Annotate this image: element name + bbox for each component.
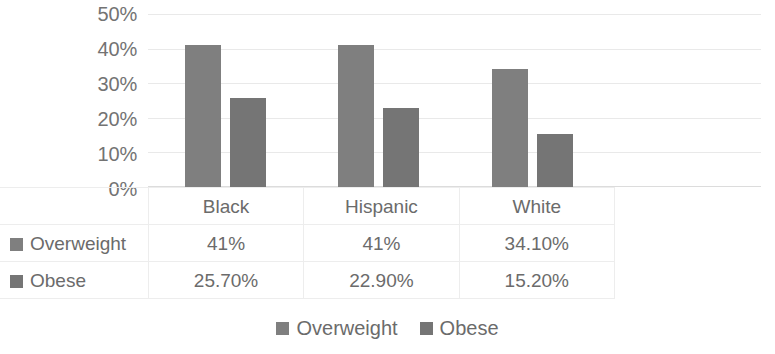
y-tick-label: 10% xyxy=(77,144,137,164)
table-row-label: Obese xyxy=(30,270,86,291)
table-cell-obese-white: 15.20% xyxy=(459,262,614,299)
data-table: Black Hispanic White Overweight 41% 41% … xyxy=(0,187,775,299)
table-column-header-black: Black xyxy=(148,188,303,225)
bar-overweight-black xyxy=(185,45,221,187)
legend-item-obese: Obese xyxy=(420,318,499,338)
table-row-label: Overweight xyxy=(30,233,126,254)
table-cell-overweight-white: 34.10% xyxy=(459,225,614,262)
legend-item-overweight: Overweight xyxy=(276,318,397,338)
chart-legend: Overweight Obese xyxy=(0,318,775,338)
y-tick-label: 30% xyxy=(77,74,137,94)
bar-obese-white xyxy=(537,134,573,187)
series-swatch-overweight-icon xyxy=(10,238,23,251)
table-cell-overweight-black: 41% xyxy=(148,225,303,262)
legend-swatch-obese-icon xyxy=(420,322,433,335)
legend-label: Obese xyxy=(440,318,499,338)
y-tick-label: 20% xyxy=(77,109,137,129)
table-cell-overweight-hispanic: 41% xyxy=(304,225,459,262)
bar-overweight-white xyxy=(492,69,528,187)
table-column-header-hispanic: Hispanic xyxy=(304,188,459,225)
table-column-header-white: White xyxy=(459,188,614,225)
y-axis: 50% 40% 30% 20% 10% 0% xyxy=(75,0,137,200)
table-header-row: Black Hispanic White xyxy=(0,188,615,225)
table-row: Overweight 41% 41% 34.10% xyxy=(0,225,615,262)
table-corner-cell xyxy=(0,188,148,225)
bar-obese-black xyxy=(230,98,266,187)
legend-label: Overweight xyxy=(296,318,397,338)
gridline-30 xyxy=(148,83,761,84)
y-tick-label: 50% xyxy=(77,4,137,24)
table-row: Obese 25.70% 22.90% 15.20% xyxy=(0,262,615,299)
gridline-50 xyxy=(148,14,761,15)
table-row-header-obese: Obese xyxy=(0,262,148,299)
plot-area xyxy=(148,14,761,187)
table-cell-obese-hispanic: 22.90% xyxy=(304,262,459,299)
y-tick-label: 40% xyxy=(77,39,137,59)
table-cell-obese-black: 25.70% xyxy=(148,262,303,299)
gridline-40 xyxy=(148,49,761,50)
bar-overweight-hispanic xyxy=(338,45,374,187)
legend-swatch-overweight-icon xyxy=(276,322,289,335)
table-row-header-overweight: Overweight xyxy=(0,225,148,262)
series-swatch-obese-icon xyxy=(10,275,23,288)
bar-obese-hispanic xyxy=(383,108,419,187)
bar-chart-figure: 50% 40% 30% 20% 10% 0% xyxy=(0,0,775,354)
